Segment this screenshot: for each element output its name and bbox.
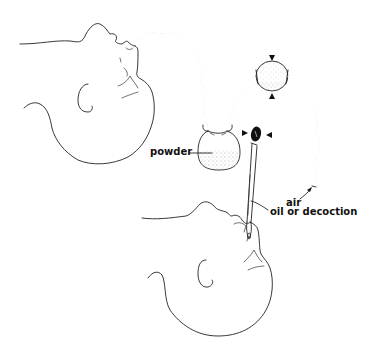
squeeze-bulb (256, 61, 288, 91)
oil-leader-line (251, 201, 268, 210)
air-arrowhead-icon (307, 187, 312, 192)
infant-head-top (20, 24, 154, 164)
arrow-up-icon (269, 93, 275, 99)
powder-container (198, 125, 240, 170)
dropper-arrow-right-icon (242, 130, 248, 136)
arrow-down-icon (269, 55, 275, 61)
dropper (247, 126, 263, 239)
dropper-arrow-left-icon (266, 132, 272, 138)
nasal-tube (133, 33, 207, 126)
air-inlet-tube (288, 76, 318, 187)
powder-label: powder (150, 147, 192, 157)
oil-or-decoction-label: oil or decoction (270, 207, 357, 217)
bulb-connector-tube (230, 84, 256, 125)
infant-head-bottom (142, 202, 272, 336)
diagram-canvas (0, 0, 369, 352)
